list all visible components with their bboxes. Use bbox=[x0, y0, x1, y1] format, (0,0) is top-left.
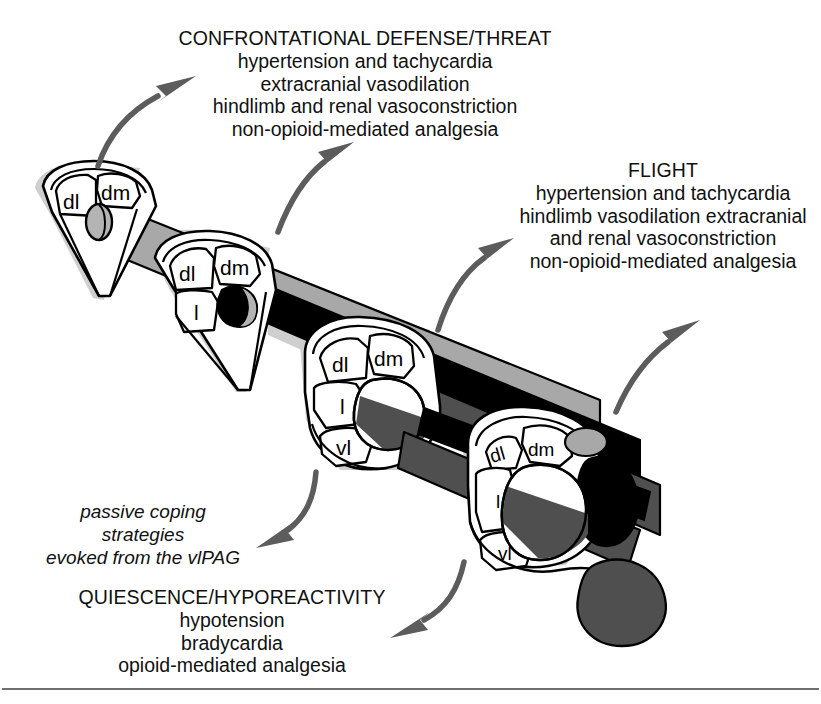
callout-title: QUIESCENCE/HYPOREACTIVITY bbox=[68, 586, 396, 609]
section-2-aqueduct bbox=[218, 287, 257, 327]
italic-note-line: evoked from the vlPAG bbox=[18, 546, 268, 569]
italic-note-line: strategies bbox=[18, 523, 268, 546]
callout-line: bradycardia bbox=[68, 632, 396, 655]
section-2-coronal-slice: dl dm l bbox=[155, 231, 276, 390]
callout-line: non-opioid-mediated analgesia bbox=[505, 250, 821, 273]
callout-line: hindlimb and renal vasoconstriction bbox=[160, 95, 570, 118]
arrow-to-quiescence bbox=[390, 562, 464, 638]
callout-quiescence-hyporeactivity: QUIESCENCE/HYPOREACTIVITY hypotension br… bbox=[68, 586, 396, 677]
callout-line: hindlimb vasodilation extracranial bbox=[505, 205, 821, 228]
italic-note-line: passive coping bbox=[18, 500, 268, 523]
section-3-label-dm: dm bbox=[374, 347, 403, 370]
section-3-label-l: l bbox=[340, 395, 345, 418]
callout-line: hypertension and tachycardia bbox=[505, 182, 821, 205]
callout-line: hypotension bbox=[68, 609, 396, 632]
arrow-to-confrontational-lower bbox=[278, 142, 354, 232]
section-4-aqueduct bbox=[502, 465, 588, 560]
callout-line: extracranial vasodilation bbox=[160, 73, 570, 96]
callout-passive-coping-note: passive coping strategies evoked from th… bbox=[18, 500, 268, 570]
arrow-to-flight-right bbox=[616, 320, 700, 412]
section-4-label-l: l bbox=[496, 491, 500, 512]
section-1-label-dm: dm bbox=[101, 181, 130, 204]
callout-title: FLIGHT bbox=[505, 159, 821, 182]
section-2-label-dm: dm bbox=[220, 256, 249, 279]
section-3-label-vl: vl bbox=[336, 436, 351, 459]
callout-flight: FLIGHT hypertension and tachycardia hind… bbox=[505, 159, 821, 273]
bottom-divider-rule bbox=[2, 688, 819, 690]
callout-title: CONFRONTATIONAL DEFENSE/THREAT bbox=[160, 27, 570, 50]
section-1-coronal-slice: dl dm bbox=[43, 161, 156, 296]
figure-canvas: dl dm dl dm l bbox=[0, 0, 821, 704]
section-2-label-dl: dl bbox=[179, 262, 195, 285]
section-1-aqueduct bbox=[86, 204, 112, 240]
section-2-label-l: l bbox=[194, 301, 199, 324]
callout-line: non-opioid-mediated analgesia bbox=[160, 118, 570, 141]
section-3-label-dl: dl bbox=[332, 353, 348, 376]
callout-line: hypertension and tachycardia bbox=[160, 50, 570, 73]
section-4-label-dm: dm bbox=[528, 439, 554, 460]
callout-confrontational-defense: CONFRONTATIONAL DEFENSE/THREAT hypertens… bbox=[160, 27, 570, 141]
section-1-label-dl: dl bbox=[63, 190, 79, 213]
section-4-gray-oval bbox=[565, 428, 607, 456]
arrow-to-flight-left bbox=[438, 238, 514, 330]
caudal-dark-gray-blob bbox=[577, 560, 665, 646]
callout-line: opioid-mediated analgesia bbox=[68, 654, 396, 677]
callout-line: and renal vasoconstriction bbox=[505, 227, 821, 250]
